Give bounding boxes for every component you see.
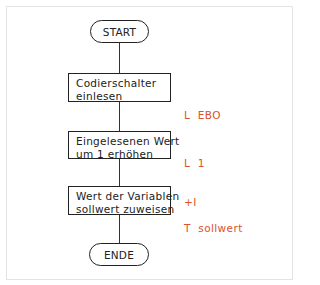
process-box-assign-variable: Wert der Variablen sollwert zuweisen: [68, 186, 171, 215]
step1-line1: Codierschalter: [76, 77, 170, 90]
end-terminator: ENDE: [89, 243, 149, 266]
start-terminator: START: [90, 20, 149, 43]
step3-line1: Wert der Variablen: [76, 190, 170, 203]
step1-annotation: L EBO: [184, 83, 221, 135]
process-box-read-switch: Codierschalter einlesen: [68, 73, 171, 102]
step3-annotation: T sollwert: [184, 196, 243, 248]
connector-step1-step2: [119, 102, 120, 131]
step3-annotation-line1: T sollwert: [184, 222, 243, 235]
step2-line1: Eingelesenen Wert: [76, 135, 170, 148]
connector-step3-end: [119, 215, 120, 243]
connector-step2-step3: [119, 159, 120, 186]
step1-annotation-line1: L EBO: [184, 109, 221, 122]
step2-annotation-line1: L 1: [184, 157, 205, 170]
step2-line2: um 1 erhöhen: [76, 148, 170, 161]
process-box-increment-value: Eingelesenen Wert um 1 erhöhen: [68, 131, 171, 159]
step3-line2: sollwert zuweisen: [76, 203, 170, 216]
end-label: ENDE: [104, 249, 134, 261]
connector-start-step1: [119, 43, 120, 73]
start-label: START: [103, 26, 136, 38]
step1-line2: einlesen: [76, 90, 170, 103]
